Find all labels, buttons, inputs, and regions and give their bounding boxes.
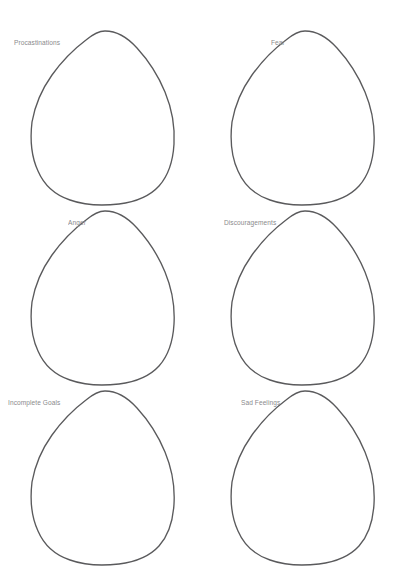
blob-item: Procastinations (18, 26, 218, 222)
blob-outline-icon (218, 206, 400, 402)
blob-label: Sad Feelings (241, 398, 280, 408)
blob-outline-icon (218, 26, 400, 222)
blob-item: Sad Feelings (218, 386, 400, 582)
blob-outline-icon (18, 26, 218, 222)
blob-item: Discouragements (218, 206, 400, 402)
blob-label: Anger (68, 218, 86, 228)
blob-label: Procastinations (14, 38, 60, 48)
blob-item: Anger (18, 206, 218, 402)
blob-label: Incomplete Goals (8, 398, 60, 408)
blob-label: Fear (271, 38, 285, 48)
worksheet-page: Procastinations Fear Anger Discouragemen… (0, 0, 400, 588)
blob-item: Incomplete Goals (18, 386, 218, 582)
blob-outline-icon (218, 386, 400, 582)
blob-label: Discouragements (224, 218, 276, 228)
blob-outline-icon (18, 206, 218, 402)
blob-item: Fear (218, 26, 400, 222)
blob-outline-icon (18, 386, 218, 582)
